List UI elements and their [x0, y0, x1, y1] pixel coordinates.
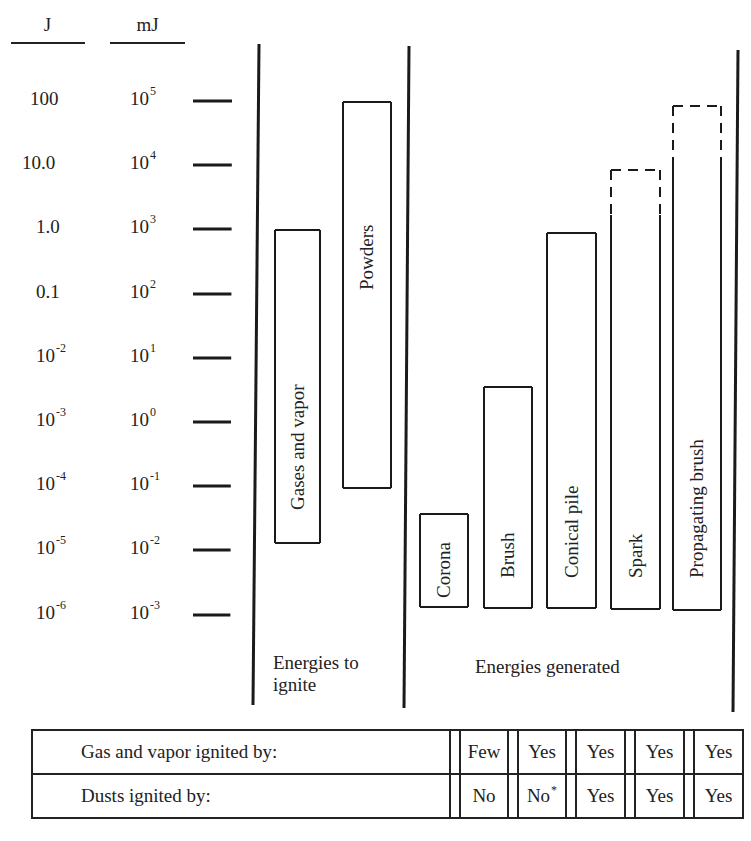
bar-label-spark: Spark — [625, 534, 647, 578]
spacer-cell — [684, 774, 694, 818]
energies-to-ignite-label: Energies to ignite — [273, 652, 359, 696]
ignition-energy-diagram: J mJ 10010510.01041.01030.110210-210110-… — [0, 0, 751, 841]
energies-to-ignite-line2: ignite — [273, 674, 316, 695]
group-divider-line — [404, 46, 409, 708]
spacer-cell — [684, 730, 694, 774]
value-cell: Yes — [635, 730, 684, 774]
value-cell: Yes — [518, 730, 566, 774]
bar-label-corona: Corona — [433, 542, 455, 598]
energies-to-ignite-line1: Energies to — [273, 652, 359, 673]
energies-generated-label: Energies generated — [475, 656, 620, 678]
value-cell: No — [460, 774, 508, 818]
spacer-cell — [450, 774, 460, 818]
value-cell: Yes — [694, 774, 743, 818]
tick-marks — [193, 101, 232, 615]
spacer-cell — [508, 730, 518, 774]
spacer-cell — [625, 774, 635, 818]
bar-label-conical-pile: Conical pile — [561, 486, 583, 578]
row-label: Gas and vapor ignited by: — [32, 730, 450, 774]
bar-label-powders: Powders — [356, 225, 378, 290]
bar-label-gases-and-vapor: Gases and vapor — [287, 384, 309, 510]
spacer-cell — [625, 730, 635, 774]
table-row: Dusts ignited by:NoNo*YesYesYes — [32, 774, 743, 818]
ignition-table: Gas and vapor ignited by:FewYesYesYesYes… — [31, 729, 744, 819]
value-cell: Yes — [694, 730, 743, 774]
spacer-cell — [450, 730, 460, 774]
bar-powders — [343, 102, 391, 488]
spacer-cell — [566, 730, 576, 774]
spacer-cell — [566, 774, 576, 818]
footnote-asterisk: * — [551, 783, 557, 797]
generated-right-frame-line — [733, 50, 738, 712]
value-cell: Yes — [576, 774, 625, 818]
table-row: Gas and vapor ignited by:FewYesYesYesYes — [32, 730, 743, 774]
row-label: Dusts ignited by: — [32, 774, 450, 818]
bar-label-propagating-brush: Propagating brush — [686, 439, 708, 578]
spacer-cell — [508, 774, 518, 818]
ignite-left-frame-line — [253, 44, 259, 705]
plot-area — [0, 0, 751, 841]
value-cell: Yes — [635, 774, 684, 818]
value-cell: No* — [518, 774, 566, 818]
value-cell: Yes — [576, 730, 625, 774]
value-cell: Few — [460, 730, 508, 774]
bar-label-brush: Brush — [497, 533, 519, 578]
